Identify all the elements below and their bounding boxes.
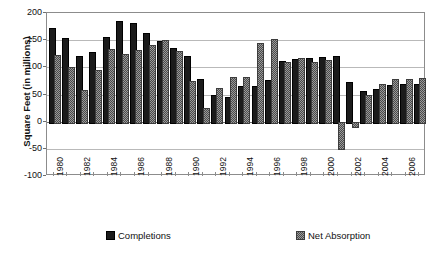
bar-net-absorption-2006 xyxy=(406,79,413,123)
bar-net-absorption-1985 xyxy=(122,54,129,123)
bar-net-absorption-1982 xyxy=(81,90,88,124)
x-tick-mark xyxy=(80,172,81,176)
x-axis-labels: 1980198219841986198819901992199419961998… xyxy=(46,176,425,216)
bar-net-absorption-1997 xyxy=(284,62,291,124)
x-tick-mark xyxy=(188,172,189,176)
x-tick-label-1992: 1992 xyxy=(219,157,227,176)
bar-net-absorption-1992 xyxy=(216,88,223,124)
bar-net-absorption-1987 xyxy=(149,45,156,124)
x-tick-mark xyxy=(323,172,324,176)
bar-net-absorption-2004 xyxy=(379,84,386,124)
x-tick-label-2000: 2000 xyxy=(327,157,335,176)
x-tick-mark xyxy=(418,172,419,176)
bar-net-absorption-1980 xyxy=(54,55,61,124)
x-tick-mark xyxy=(161,172,162,176)
x-tick-mark xyxy=(310,172,311,176)
x-tick-label-2004: 2004 xyxy=(381,157,389,176)
bar-net-absorption-1994 xyxy=(243,77,250,124)
legend-label: Net Absorption xyxy=(308,230,370,241)
x-tick-mark xyxy=(256,172,257,176)
x-tick-mark xyxy=(337,172,338,176)
y-tick-label: -100 xyxy=(6,171,42,180)
bar-net-absorption-2003 xyxy=(365,95,372,124)
legend-swatch-absorption xyxy=(296,231,305,240)
bar-net-absorption-2002 xyxy=(352,122,359,128)
x-tick-label-1996: 1996 xyxy=(273,157,281,176)
x-tick-label-1986: 1986 xyxy=(137,157,145,176)
x-tick-label-1984: 1984 xyxy=(110,157,118,176)
x-tick-mark xyxy=(148,172,149,176)
bar-net-absorption-1990 xyxy=(189,81,196,123)
x-tick-mark xyxy=(283,172,284,176)
x-tick-mark xyxy=(242,172,243,176)
legend-label: Completions xyxy=(118,230,171,241)
bar-net-absorption-1996 xyxy=(271,39,278,124)
legend-swatch-completions xyxy=(106,231,115,240)
bar-net-absorption-1983 xyxy=(95,70,102,124)
x-tick-label-1990: 1990 xyxy=(192,157,200,176)
x-tick-mark xyxy=(66,172,67,176)
x-tick-mark xyxy=(405,172,406,176)
chart-legend: CompletionsNet Absorption xyxy=(46,226,425,248)
y-tick-label: -50 xyxy=(6,144,42,153)
x-tick-mark xyxy=(391,172,392,176)
x-tick-mark xyxy=(215,172,216,176)
y-tick-label: 200 xyxy=(6,8,42,17)
bar-chart: Square Feet (in millions) 200150100500-5… xyxy=(0,0,432,253)
bar-net-absorption-2007 xyxy=(419,78,426,123)
bar-net-absorption-1984 xyxy=(108,49,115,123)
x-tick-mark xyxy=(202,172,203,176)
legend-item-completions[interactable]: Completions xyxy=(106,230,171,241)
x-tick-mark xyxy=(175,172,176,176)
y-tick-label: 100 xyxy=(6,62,42,71)
x-tick-mark xyxy=(229,172,230,176)
x-tick-mark xyxy=(296,172,297,176)
bar-series-container xyxy=(47,13,424,174)
plot-area xyxy=(46,12,425,175)
x-tick-mark xyxy=(107,172,108,176)
bar-net-absorption-1988 xyxy=(162,40,169,124)
bar-net-absorption-2000 xyxy=(325,60,332,123)
bar-net-absorption-1995 xyxy=(257,43,264,123)
x-tick-label-1980: 1980 xyxy=(56,157,64,176)
x-tick-label-1982: 1982 xyxy=(83,157,91,176)
x-tick-mark xyxy=(120,172,121,176)
x-tick-mark xyxy=(351,172,352,176)
x-tick-mark xyxy=(269,172,270,176)
bar-net-absorption-1989 xyxy=(176,51,183,124)
bar-net-absorption-1998 xyxy=(298,58,305,124)
x-tick-label-2002: 2002 xyxy=(354,157,362,176)
legend-item-net-absorption[interactable]: Net Absorption xyxy=(296,230,370,241)
bar-net-absorption-1991 xyxy=(203,108,210,124)
x-tick-label-1994: 1994 xyxy=(246,157,254,176)
bar-net-absorption-1986 xyxy=(135,50,142,123)
x-tick-mark xyxy=(134,172,135,176)
x-tick-mark xyxy=(364,172,365,176)
bar-net-absorption-1981 xyxy=(68,67,75,123)
bar-net-absorption-2005 xyxy=(392,79,399,123)
x-tick-mark xyxy=(53,172,54,176)
y-tick-label: 0 xyxy=(6,117,42,126)
bar-net-absorption-1999 xyxy=(311,62,318,123)
bar-net-absorption-1993 xyxy=(230,77,237,124)
y-tick-label: 50 xyxy=(6,90,42,99)
x-tick-mark xyxy=(93,172,94,176)
bar-net-absorption-2001 xyxy=(338,122,345,150)
bar-completions-2002 xyxy=(346,82,353,124)
bar-completions-2001 xyxy=(333,56,340,123)
x-tick-mark xyxy=(378,172,379,176)
x-tick-label-1988: 1988 xyxy=(165,157,173,176)
y-tick-label: 150 xyxy=(6,35,42,44)
x-tick-label-2006: 2006 xyxy=(408,157,416,176)
x-tick-label-1998: 1998 xyxy=(300,157,308,176)
